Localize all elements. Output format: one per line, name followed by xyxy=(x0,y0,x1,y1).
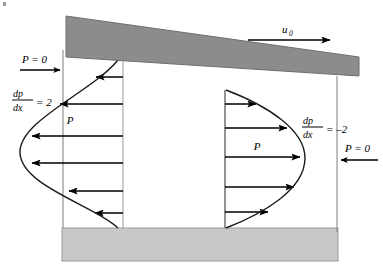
left-gradient-value: = 2 xyxy=(36,96,52,108)
left-gradient-denominator: dx xyxy=(13,102,23,113)
right-velocity-profile-curve xyxy=(226,90,305,228)
right-pressure-gradient-label: dp dx = –2 xyxy=(302,115,348,140)
right-gradient-denominator: dx xyxy=(303,129,313,140)
left-pressure-gradient-label: dp dx = 2 xyxy=(12,88,52,113)
slider-velocity-label-subscript: 0 xyxy=(289,29,293,38)
left-velocity-profile-curve xyxy=(20,60,118,228)
left-profile-p-label: P xyxy=(66,114,74,126)
right-profile-arrow-group xyxy=(225,104,300,212)
left-gradient-numerator: dp xyxy=(13,88,23,99)
slider-bearing-diagram: u 0 P = 0 P = 0 dp dx = 2 dp dx = –2 P P xyxy=(0,0,383,273)
right-pressure-label: P = 0 xyxy=(344,142,370,154)
scan-speck xyxy=(3,2,6,6)
right-gradient-numerator: dp xyxy=(303,115,313,126)
stationary-wall xyxy=(62,228,338,261)
right-profile-p-label: P xyxy=(253,140,261,152)
moving-slider-plate xyxy=(66,16,359,76)
slider-velocity-label-base: u xyxy=(282,23,288,35)
figure-root: u 0 P = 0 P = 0 dp dx = 2 dp dx = –2 P P xyxy=(0,0,383,273)
right-gradient-value: = –2 xyxy=(326,123,348,135)
left-pressure-label: P = 0 xyxy=(21,53,47,65)
